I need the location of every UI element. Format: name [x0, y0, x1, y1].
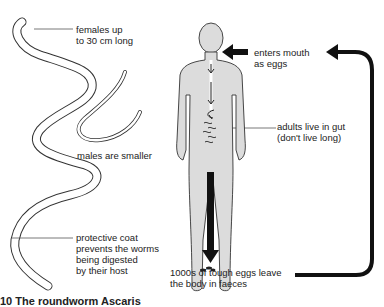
label-eggs-leave: 1000s of tough eggs leave the body in fa…: [170, 267, 281, 289]
figure-caption: 10 The roundworm Ascaris: [0, 295, 141, 307]
label-line: to 30 cm long: [76, 35, 133, 46]
label-line: males are smaller: [77, 150, 152, 161]
label-enters-mouth: enters mouth as eggs: [254, 47, 309, 69]
label-line: being digested: [76, 254, 159, 265]
label-adults-gut: adults live in gut (don't live long): [277, 121, 345, 143]
label-protective-coat: protective coat prevents the worms being…: [76, 232, 159, 276]
label-line: as eggs: [254, 58, 309, 69]
label-line: adults live in gut: [277, 121, 345, 132]
label-line: enters mouth: [254, 47, 309, 58]
label-males: males are smaller: [77, 150, 152, 161]
label-line: prevents the worms: [76, 243, 159, 254]
cycle-return-arrow: [295, 44, 372, 275]
label-line: females up: [76, 24, 133, 35]
label-line: (don't live long): [277, 132, 345, 143]
label-line: protective coat: [76, 232, 159, 243]
label-line: by their host: [76, 265, 159, 276]
label-females: females up to 30 cm long: [76, 24, 133, 46]
label-line: 1000s of tough eggs leave: [170, 267, 281, 278]
arrow-into-mouth: [222, 44, 248, 60]
label-line: the body in faeces: [170, 278, 281, 289]
